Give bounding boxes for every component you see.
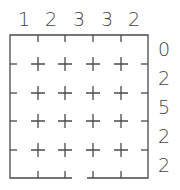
bottom-ticks bbox=[38, 171, 121, 178]
side-ticks bbox=[10, 64, 148, 150]
grid-border bbox=[10, 35, 148, 178]
puzzle-grid[interactable] bbox=[0, 0, 180, 190]
interior-crosses bbox=[31, 57, 128, 157]
top-ticks bbox=[38, 35, 121, 42]
